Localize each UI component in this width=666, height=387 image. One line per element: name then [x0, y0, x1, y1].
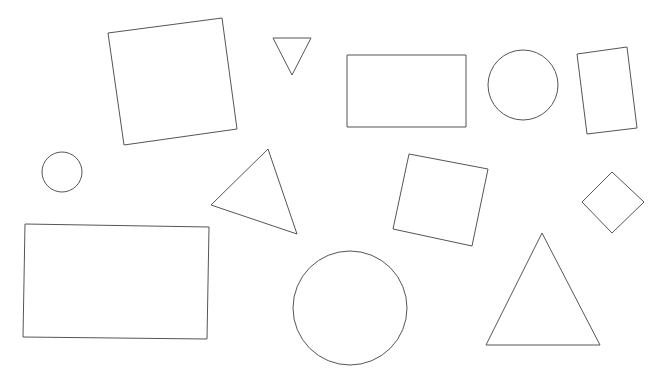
- shapes-canvas: [0, 0, 666, 387]
- canvas-background: [0, 0, 666, 387]
